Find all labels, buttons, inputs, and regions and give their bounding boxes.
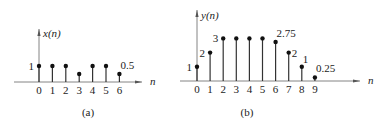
x-tick-label: 5 [103, 84, 109, 96]
y-axis-arrow-icon [37, 29, 40, 36]
stem-marker [260, 36, 264, 40]
stem-marker [64, 64, 68, 68]
stem-marker [50, 64, 54, 68]
value-annotation: 1 [303, 53, 309, 65]
stem-marker [247, 36, 251, 40]
value-annotation: 2 [200, 47, 206, 59]
x-tick-label: 1 [207, 83, 213, 95]
panel-label: (a) [82, 106, 95, 119]
x-tick-label: 7 [286, 83, 292, 95]
stem-marker [287, 50, 291, 54]
x-tick-label: 8 [299, 83, 305, 95]
x-tick-label: 0 [194, 83, 200, 95]
y-axis-arrow-icon [195, 10, 198, 17]
stem-marker [77, 72, 81, 76]
x-tick-label: 2 [63, 84, 69, 96]
stem-marker [104, 64, 108, 68]
y-axis-label: x(n) [42, 27, 61, 40]
stem-plots-figure: nx(n)012345610.5(a) ny(n)01234567891232.… [0, 0, 381, 137]
x-axis-label: n [150, 75, 156, 87]
panel-a-xn-stem-plot: nx(n)012345610.5(a) [14, 27, 156, 119]
x-tick-label: 5 [260, 83, 266, 95]
x-tick-label: 1 [50, 84, 56, 96]
x-tick-label: 3 [234, 83, 240, 95]
stem-marker [273, 40, 277, 44]
panel-b-yn-stem-plot: ny(n)01234567891232.75210.25(b) [180, 9, 374, 119]
x-tick-label: 9 [312, 83, 318, 95]
value-annotation: 1 [29, 60, 35, 72]
stem-marker [117, 72, 121, 76]
y-axis-label: y(n) [200, 9, 219, 22]
stem-marker [300, 65, 304, 69]
x-tick-label: 3 [76, 84, 82, 96]
value-annotation: 2.75 [277, 27, 297, 39]
stem-marker [221, 36, 225, 40]
stem-marker [195, 65, 199, 69]
stem-marker [234, 36, 238, 40]
x-axis-label: n [368, 74, 374, 86]
x-tick-label: 4 [90, 84, 96, 96]
value-annotation: 2 [292, 47, 298, 59]
x-tick-label: 2 [220, 83, 226, 95]
panel-label: (b) [241, 106, 254, 119]
stem-marker [208, 50, 212, 54]
x-axis-arrow-icon [135, 80, 142, 83]
value-annotation: 0.25 [316, 62, 336, 74]
x-tick-label: 4 [247, 83, 253, 95]
stem-marker [90, 64, 94, 68]
x-axis-arrow-icon [353, 79, 360, 82]
x-tick-label: 6 [273, 83, 279, 95]
value-annotation: 0.5 [120, 59, 134, 71]
stem-marker [313, 75, 317, 79]
value-annotation: 3 [213, 32, 219, 44]
value-annotation: 1 [187, 61, 193, 73]
x-tick-label: 6 [117, 84, 123, 96]
x-tick-label: 0 [36, 84, 42, 96]
stem-marker [37, 64, 41, 68]
